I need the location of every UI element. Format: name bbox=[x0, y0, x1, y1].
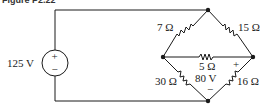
circuit-diagram: Figure P2.22 + − 125 V bbox=[0, 0, 264, 111]
wire-bl-b bbox=[190, 84, 208, 101]
node-left bbox=[161, 55, 165, 59]
wire-tr-b bbox=[237, 34, 253, 57]
source-label: 125 V bbox=[7, 57, 34, 69]
wire-br-a bbox=[238, 57, 253, 72]
resistor-7-zigzag bbox=[177, 24, 193, 36]
bottom-wire bbox=[55, 76, 208, 101]
voltage-80-minus: − bbox=[207, 83, 213, 95]
resistor-7-label: 7 Ω bbox=[157, 21, 173, 33]
source-plus: + bbox=[52, 50, 58, 62]
node-top bbox=[206, 8, 210, 12]
resistor-15-zigzag bbox=[223, 24, 237, 36]
wire-bl-a bbox=[163, 57, 178, 72]
node-bottom bbox=[206, 99, 210, 103]
figure-label: Figure P2.22 bbox=[2, 0, 56, 5]
resistor-30-zigzag bbox=[178, 71, 190, 85]
source-minus: − bbox=[52, 63, 58, 75]
resistor-30-label: 30 Ω bbox=[155, 75, 177, 87]
wires bbox=[42, 10, 253, 101]
wire-tl-b bbox=[163, 34, 177, 57]
resistor-15-label: 15 Ω bbox=[238, 21, 260, 33]
circuit-svg: Figure P2.22 + − 125 V bbox=[0, 0, 264, 111]
node-right bbox=[251, 55, 255, 59]
wire-tl-a bbox=[193, 10, 208, 26]
voltage-80-plus: + bbox=[233, 58, 239, 70]
wire-tr-a bbox=[208, 10, 223, 26]
resistor-5-label: 5 Ω bbox=[199, 60, 215, 72]
voltage-80-label: 80 V bbox=[195, 72, 217, 84]
resistor-16-label: 16 Ω bbox=[237, 75, 259, 87]
